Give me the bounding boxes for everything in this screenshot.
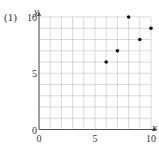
scatter-chart: (1) 05100510 x y bbox=[0, 0, 159, 147]
data-point bbox=[104, 60, 108, 64]
data-point bbox=[116, 49, 120, 53]
x-tick-label: 10 bbox=[146, 133, 156, 144]
grid-lines bbox=[39, 17, 151, 130]
data-point bbox=[138, 38, 142, 42]
x-tick-label: 0 bbox=[37, 133, 42, 144]
data-point bbox=[149, 26, 153, 30]
y-axis-label: y bbox=[33, 5, 39, 17]
y-tick-label: 5 bbox=[32, 68, 37, 79]
y-tick-label: 0 bbox=[32, 125, 37, 136]
problem-label: (1) bbox=[4, 11, 17, 24]
x-tick-label: 5 bbox=[93, 133, 98, 144]
tick-labels: 05100510 bbox=[27, 12, 156, 144]
data-point bbox=[127, 15, 131, 19]
x-axis-label: x bbox=[151, 121, 157, 133]
